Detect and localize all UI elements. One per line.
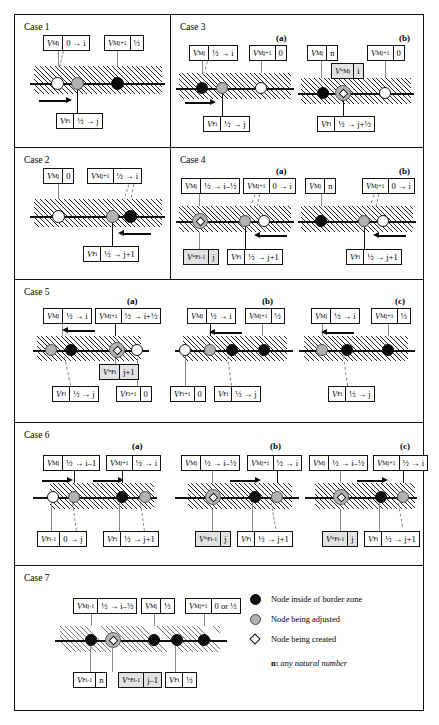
case6b-bottom-box-1: VFi ½ → j+1 — [237, 531, 293, 547]
case3b-bottom-box-0: VFi ½ → j+½ — [317, 116, 375, 132]
case3b-top-box-1-sym: VMj+1 — [368, 46, 394, 60]
case4b-top-box-1: VMj+1 0 → i — [362, 178, 415, 194]
case4b-bottom-box-0-sym: VFi — [347, 250, 364, 264]
case5a-node-black — [65, 344, 77, 356]
case3a-node-white — [255, 82, 267, 94]
case5b-arrow-left — [214, 332, 242, 334]
case4b-bottom-box-0-val: ½ → j+1 — [364, 250, 401, 264]
case6c-bottom-box-0: V*Fi-1 j — [322, 531, 358, 547]
case7-bottom-box-1-sym: V*Fi-1 — [119, 673, 144, 687]
case4a-bottom-box-0-sym: V*Fi-1 — [184, 250, 209, 264]
case7-top-box-2-sym: VMj+1 — [186, 599, 212, 613]
case7-top-box-1-val: ½ — [161, 599, 173, 613]
case3a-mesh-line — [176, 88, 294, 90]
panel-case4: Case 4 (a) (b) VMj ½ → i–½ VMj+1 0 → i V… — [170, 147, 423, 279]
case6a-leader-1 — [51, 503, 52, 531]
case7-top-box-2-val: 0 or ½ — [212, 599, 240, 613]
case6b-top-box-0-sym: VMj — [182, 456, 201, 470]
case6a-top-box-1: VMj+1 ½ → i — [106, 455, 161, 471]
case5b-top-box-0-val: ½ → i — [207, 309, 235, 323]
case6b-top-box-1-val: ½ → i — [274, 456, 302, 470]
case6b-top-box-0-val: ½ → i–½ — [201, 456, 239, 470]
case1-bottom-box-0-val: ½ → j — [74, 114, 102, 128]
case2-top-box-1-sym: VMj+1 — [88, 169, 114, 183]
panel-case1: Case 1 VMj 0 → i VMj+1 ½ VFi ½ → j — [15, 15, 170, 147]
case5c-arrow-left — [326, 332, 354, 334]
case4a-bottom-box-1-val: ½ → j+1 — [245, 250, 282, 264]
case6c-bottom-box-0-val: j — [348, 532, 356, 546]
case5a-top-box-1: VMj+1 ½ → i+½ — [95, 308, 161, 324]
case1-top-box-1-val: ½ — [131, 36, 143, 50]
case4a-top-box-1-sym: VMj+1 — [244, 179, 270, 193]
legend-item-2-label: Node being created — [271, 635, 336, 644]
case7-bottom-box-0-sym: VFi-1 — [74, 673, 96, 687]
legend-item-0: Node inside of border zone — [250, 594, 362, 605]
case5c-label: (c) — [395, 296, 405, 306]
case7-top-box-0: VMj-1 ½ → i–½ — [73, 598, 137, 614]
case6b-bottom-box-0: V*Fi-1 j — [195, 531, 231, 547]
case7-bottom-box-2: VFi ½ — [165, 672, 197, 688]
case4a-top-box-1: VMj+1 0 → i — [243, 178, 296, 194]
case3a-bottom-box-0: VFi ½ → j — [203, 116, 250, 132]
case7-top-box-0-sym: VMj-1 — [74, 599, 98, 613]
case7-bottom-box-2-val: ½ — [183, 673, 195, 687]
case7-top-box-1-sym: VMj — [142, 599, 161, 613]
case6a-bottom-box-0-sym: VFi-1 — [38, 532, 60, 546]
case1-node-gray — [71, 77, 84, 90]
case3a-top-box-1-sym: VMj+1 — [250, 46, 276, 60]
case5b-node-white — [179, 344, 191, 356]
legend-note-symbol: n: — [271, 659, 278, 668]
case5b-top-box-1-sym: VMj+1 — [246, 309, 272, 323]
case4a-bottom-box-0-val: j — [209, 250, 217, 264]
case4a-bottom-box-1-sym: VFi — [228, 250, 245, 264]
case5c-top-box-0: VMj ½ → i — [311, 308, 360, 324]
case5c-bottom-box-0-sym: VFi — [329, 387, 346, 401]
case5b-node-gray — [204, 344, 216, 356]
case1-top-box-1-sym: VMj+1 — [105, 36, 131, 50]
case5a-bottom-box-0: VFi ½ → j — [52, 386, 99, 402]
panel-case3: Case 3 (a) (b) VMj ½ → i VMj+1 0 VFi ½ →… — [170, 15, 423, 147]
case7-bottom-box-2-sym: VFi — [166, 673, 183, 687]
case5a-mid-box-0: V*Fi j+1 — [99, 364, 139, 380]
case1-leader-dash — [59, 51, 64, 67]
case3a-top-box-0: VMj ½ → i — [189, 45, 238, 61]
case4b-arrow-left — [378, 235, 406, 237]
case6a-leader-2 — [119, 503, 120, 531]
case6c-bottom-box-1-val: ½ → j+1 — [382, 532, 419, 546]
case7-top-box-2: VMj+1 0 or ½ — [185, 598, 241, 614]
case5a-top-box-1-val: ½ → i+½ — [122, 309, 161, 323]
case3b-top-box-1-val: 0 — [394, 46, 404, 60]
case5a-mid-box-0-sym: V*Fi — [100, 365, 120, 379]
case5a-bottom-box-0-sym: VFi — [53, 387, 70, 401]
case3b-bottom-box-0-sym: VFi — [318, 117, 335, 131]
case4b-top-box-1-val: 0 → i — [389, 179, 414, 193]
case6c-top-box-0: VMj ½ → i–½ — [309, 455, 368, 471]
case2-arrow-left — [123, 233, 151, 235]
case3a-top-box-0-sym: VMj — [190, 46, 209, 60]
case1-top-box-0-val: 0 → i — [63, 36, 88, 50]
case5-title: Case 5 — [24, 287, 50, 297]
case4a-top-box-1-val: 0 → i — [270, 179, 295, 193]
case5c-bottom-box-0: VFi ½ → j — [328, 386, 375, 402]
case1-top-box-1: VMj+1 ½ — [104, 35, 144, 51]
case3a-node-black — [196, 82, 208, 94]
case4a-node-gray — [239, 215, 251, 227]
case3b-mid-box-0-val: i — [354, 64, 362, 78]
legend-item-1: Node being adjusted — [250, 614, 340, 625]
case2-top-box-1: VMj+1 ½ → i — [87, 168, 142, 184]
case7-node-black-4 — [198, 634, 210, 646]
case4b-top-box-1-sym: VMj+1 — [363, 179, 389, 193]
case6a-bottom-box-0-val: 0 → j — [60, 532, 85, 546]
case5a-bottom-box-1-val: 0 — [141, 387, 151, 401]
case2-node-gray — [106, 210, 119, 223]
case5b-bottom-box-0-sym: VFi+1 — [171, 387, 195, 401]
case4a-bottom-box-0: V*Fi-1 j — [183, 249, 219, 265]
panel-case7: Case 7 VMj-1 ½ → i–½ VMj ½ VMj+1 0 or ½ … — [15, 565, 423, 710]
case1-title: Case 1 — [24, 22, 50, 32]
case6a-bottom-box-0: VFi-1 0 → j — [37, 531, 87, 547]
case6c-bottom-box-1: VFi ½ → j+1 — [364, 531, 420, 547]
case6a-top-box-1-sym: VMj+1 — [107, 456, 133, 470]
case6c-arrow-right — [357, 480, 383, 482]
case4a-node-white — [258, 215, 270, 227]
case6b-bottom-box-0-val: j — [221, 532, 229, 546]
